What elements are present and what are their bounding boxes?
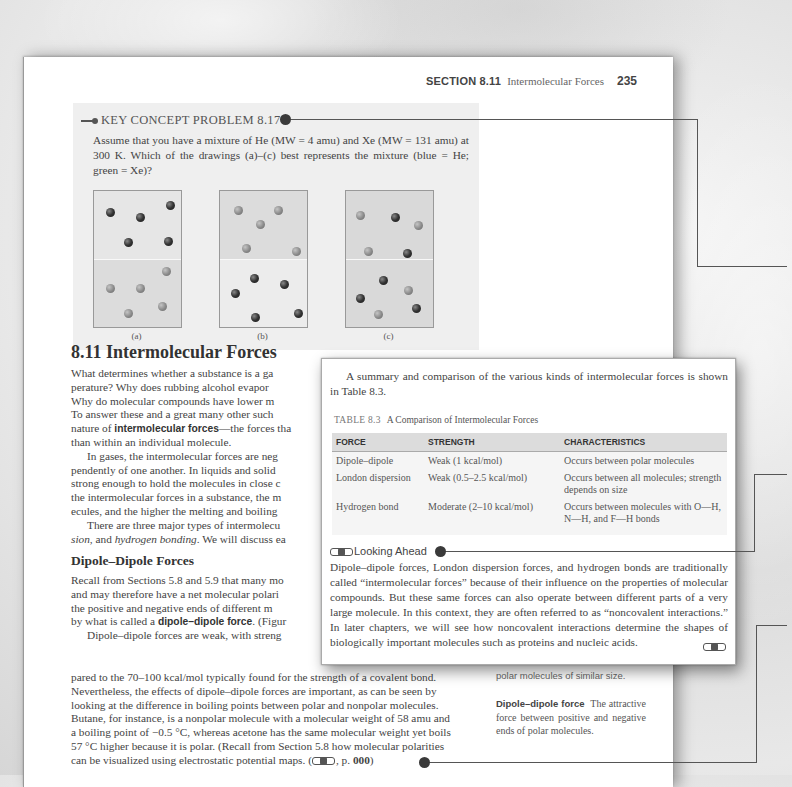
connector-line-2 [444, 551, 755, 552]
cell-characteristics: Occurs between molecules with O—H, N—H, … [560, 498, 727, 535]
connector-line-1 [290, 119, 698, 120]
margin-definition: Dipole–dipole force The attractive force… [496, 697, 646, 738]
link-icon[interactable] [312, 757, 332, 765]
cell-force: London dispersion [332, 469, 424, 498]
looking-ahead-text: Dipole–dipole forces, London dispersion … [330, 560, 728, 650]
text-line: Nevertheless, the effects of dipole–dipo… [71, 685, 485, 699]
drawings: (a) (b) [93, 190, 473, 340]
connector-line-1 [697, 119, 698, 267]
running-head: SECTION 8.11 Intermolecular Forces 235 [426, 74, 637, 89]
col-header-characteristics: CHARACTERISTICS [560, 433, 727, 452]
dipole-paragraph-2: pared to the 70–100 kcal/mol typically f… [71, 671, 485, 768]
drawing-a [93, 190, 182, 328]
kcp-title-text: KEY CONCEPT PROBLEM 8.17 [101, 113, 280, 127]
section-running-title: Intermolecular Forces [507, 75, 604, 87]
text-line: a boiling point of −0.5 °C, whereas acet… [71, 726, 485, 740]
callout-dot-kcp[interactable] [280, 114, 291, 125]
table-row: Dipole–dipole Weak (1 kcal/mol) Occurs b… [332, 452, 727, 470]
cell-characteristics: Occurs between all molecules; strength d… [560, 469, 727, 498]
margin-snippet: polar molecules of similar size. [496, 669, 646, 683]
text-line: looking at the difference in boiling poi… [71, 699, 485, 713]
text-line: Butane, for instance, is a nonpolar mole… [71, 712, 485, 726]
text-line: pared to the 70–100 kcal/mol typically f… [71, 671, 485, 685]
key-term: dipole–dipole force [158, 616, 252, 627]
cell-force: Dipole–dipole [332, 452, 424, 470]
comparison-table: FORCE STRENGTH CHARACTERISTICS Dipole–di… [332, 433, 727, 535]
callout-dot-looking-ahead[interactable] [435, 546, 446, 557]
drawing-label-a: (a) [93, 331, 180, 341]
key-icon [81, 118, 99, 124]
callout-dot-link[interactable] [419, 757, 430, 768]
cell-force: Hydrogen bond [332, 498, 424, 535]
margin-term: Dipole–dipole force [496, 698, 585, 709]
table-caption: TABLE 8.3 A Comparison of Intermolecular… [334, 415, 538, 425]
connector-line-3 [756, 625, 787, 626]
connector-line-2 [754, 474, 755, 552]
key-concept-problem: KEY CONCEPT PROBLEM 8.17 Assume that you… [73, 103, 479, 350]
page-number: 235 [617, 74, 637, 88]
text-line: 57 °C higher because it is polar. (Recal… [71, 740, 485, 754]
key-term: intermolecular forces [114, 423, 219, 434]
connector-line-2 [754, 474, 787, 475]
table-row: Hydrogen bond Moderate (2–10 kcal/mol) O… [332, 498, 727, 535]
table-popup-card: A summary and comparison of the various … [321, 358, 736, 665]
col-header-strength: STRENGTH [424, 433, 560, 452]
subsection-heading: Dipole–Dipole Forces [71, 553, 194, 569]
drawing-label-c: (c) [345, 331, 432, 341]
drawing-c [345, 190, 434, 328]
connector-line-3 [756, 625, 757, 763]
page-ref[interactable]: 000 [353, 754, 370, 766]
section-heading: 8.11 Intermolecular Forces [71, 342, 277, 363]
link-icon [330, 548, 350, 556]
cell-strength: Moderate (2–10 kcal/mol) [424, 498, 560, 535]
cell-strength: Weak (1 kcal/mol) [424, 452, 560, 470]
cell-characteristics: Occurs between polar molecules [560, 452, 727, 470]
drawing-label-b: (b) [219, 331, 306, 341]
looking-ahead-heading: Looking Ahead [330, 545, 427, 557]
table-row: London dispersion Weak (0.5–2.5 kcal/mol… [332, 469, 727, 498]
kcp-title: KEY CONCEPT PROBLEM 8.17 [81, 113, 280, 128]
cell-strength: Weak (0.5–2.5 kcal/mol) [424, 469, 560, 498]
card-intro: A summary and comparison of the various … [330, 369, 728, 399]
drawing-b [219, 190, 308, 328]
kcp-question: Assume that you have a mixture of He (MW… [93, 133, 469, 178]
connector-line-1 [697, 266, 787, 267]
section-label: SECTION 8.11 [426, 75, 501, 87]
link-icon[interactable] [703, 643, 723, 651]
connector-line-3 [428, 762, 757, 763]
col-header-force: FORCE [332, 433, 424, 452]
